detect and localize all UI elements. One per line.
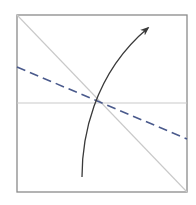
- origami-diagram: Origami fold diagram: [0, 0, 196, 205]
- diagram-canvas: [0, 0, 196, 205]
